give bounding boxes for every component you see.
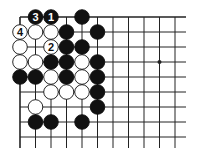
black-stone — [90, 25, 105, 40]
white-stone — [44, 85, 59, 100]
black-stone — [75, 115, 90, 130]
black-stone-icon — [90, 85, 105, 100]
white-stone-icon — [75, 85, 90, 100]
black-stone-icon — [75, 10, 90, 25]
black-stone — [90, 100, 105, 115]
move-number-label: 1 — [48, 11, 54, 23]
black-stone-icon — [28, 70, 43, 85]
black-stone-icon — [90, 55, 105, 70]
star-points — [158, 60, 162, 64]
white-stone-icon — [44, 25, 59, 40]
black-stone — [59, 55, 74, 70]
black-stone — [13, 70, 28, 85]
move-number-label: 2 — [48, 41, 54, 53]
black-stone — [28, 115, 43, 130]
black-stone — [90, 55, 105, 70]
white-stone-move-2: 2 — [44, 40, 59, 55]
black-stone-icon — [59, 70, 74, 85]
black-stone — [75, 40, 90, 55]
black-stone-icon — [90, 70, 105, 85]
white-stone — [75, 70, 90, 85]
black-stone-icon — [90, 25, 105, 40]
white-stone-move-4: 4 — [13, 25, 28, 40]
white-stone — [44, 70, 59, 85]
black-stone — [75, 10, 90, 25]
move-number-label: 4 — [17, 26, 24, 38]
white-stone-icon — [75, 70, 90, 85]
black-stone-icon — [90, 100, 105, 115]
white-stone-icon — [13, 55, 28, 70]
move-number-label: 3 — [32, 11, 38, 23]
go-board-diagram: 3142 — [0, 0, 197, 155]
black-stone-icon — [75, 115, 90, 130]
white-stone-icon — [59, 85, 74, 100]
black-stone-icon — [44, 55, 59, 70]
black-stone-move-3: 3 — [28, 10, 43, 25]
white-stone-icon — [44, 70, 59, 85]
black-stone — [28, 70, 43, 85]
black-stone — [59, 25, 74, 40]
black-stone — [59, 40, 74, 55]
white-stone-icon — [28, 55, 43, 70]
black-stone-icon — [44, 115, 59, 130]
white-stone — [13, 40, 28, 55]
white-stone — [13, 55, 28, 70]
white-stone — [59, 85, 74, 100]
black-stone — [90, 85, 105, 100]
black-stone — [90, 70, 105, 85]
white-stone-icon — [13, 40, 28, 55]
stones-layer: 3142 — [13, 10, 105, 130]
white-stone — [44, 25, 59, 40]
black-stone-icon — [59, 25, 74, 40]
black-stone-icon — [59, 40, 74, 55]
white-stone-icon — [75, 55, 90, 70]
black-stone — [44, 115, 59, 130]
star-point-icon — [158, 60, 162, 64]
black-stone — [59, 70, 74, 85]
black-stone-icon — [28, 115, 43, 130]
white-stone — [28, 100, 43, 115]
white-stone — [28, 25, 43, 40]
black-stone — [44, 55, 59, 70]
white-stone — [28, 55, 43, 70]
white-stone-icon — [28, 25, 43, 40]
black-stone-icon — [13, 70, 28, 85]
white-stone-icon — [44, 85, 59, 100]
black-stone-icon — [75, 40, 90, 55]
white-stone — [75, 55, 90, 70]
white-stone — [75, 85, 90, 100]
black-stone-move-1: 1 — [44, 10, 59, 25]
white-stone-icon — [28, 100, 43, 115]
black-stone-icon — [59, 55, 74, 70]
